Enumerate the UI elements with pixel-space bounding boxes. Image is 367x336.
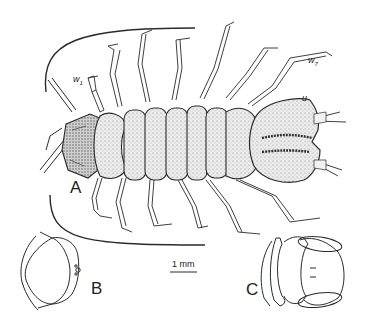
pygidium [250, 99, 321, 183]
panel-label-a: A [70, 178, 81, 198]
antenna-lower [50, 195, 205, 245]
scale-bar-label: 1 mm [172, 259, 195, 269]
panel-label-c: C [246, 280, 258, 300]
body-tergites [94, 106, 256, 180]
illustration-canvas [0, 0, 367, 336]
annotation-w1: w1 [73, 74, 83, 86]
panel-c-terminal-outline [261, 234, 344, 310]
annotation-u: u [302, 93, 307, 103]
panel-b-head-outline [21, 232, 80, 310]
panel-a-animal [40, 22, 346, 245]
panel-label-b: B [91, 279, 102, 299]
antenna-upper [45, 28, 195, 92]
figure: A B C w1 w7 u 1 mm [0, 0, 367, 336]
annotation-w7: w7 [308, 55, 318, 67]
legs-lower [92, 178, 320, 234]
